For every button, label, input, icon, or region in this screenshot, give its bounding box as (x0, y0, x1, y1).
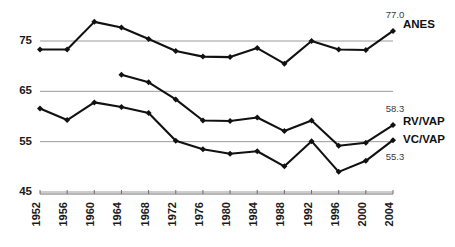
y-axis-tick-labels: 45556575 (19, 34, 32, 197)
x-tick-label-2000: 2000 (356, 202, 368, 226)
y-tick-label-45: 45 (19, 185, 32, 197)
data-point-marker (173, 48, 179, 54)
x-tick-label-1976: 1976 (193, 202, 205, 226)
data-point-marker (227, 54, 233, 60)
y-tick-label-55: 55 (19, 135, 32, 147)
x-tick-label-1964: 1964 (111, 201, 123, 226)
x-tick-label-1960: 1960 (84, 202, 96, 226)
end-value-label-anes: 77.0 (386, 9, 405, 20)
x-tick-label-1956: 1956 (57, 202, 69, 226)
series-line-anes (40, 22, 393, 64)
y-tick-label-65: 65 (19, 84, 32, 96)
series-line-vc-vap (40, 102, 393, 171)
series-label-rv-vap: RV/VAP (403, 115, 445, 127)
chart-canvas: 45556575 1952195619601964196819721976198… (0, 0, 455, 247)
series-group (40, 22, 393, 172)
y-tick-label-75: 75 (19, 34, 32, 46)
x-tick-label-1996: 1996 (329, 202, 341, 226)
series-label-anes: ANES (403, 18, 435, 30)
x-tick-label-2004: 2004 (383, 201, 395, 226)
x-tick-label-1988: 1988 (274, 202, 286, 226)
series-label-vc-vap: VC/VAP (403, 133, 445, 145)
data-point-marker (37, 105, 43, 111)
series-line-rv-vap (121, 75, 393, 146)
data-point-marker (118, 24, 124, 30)
x-tick-label-1952: 1952 (30, 202, 42, 226)
x-axis-tick-labels: 1952195619601964196819721976198019841988… (30, 201, 395, 226)
end-value-label-rv-vap: 58.3 (386, 103, 405, 114)
data-point-marker (200, 54, 206, 60)
x-tick-label-1984: 1984 (247, 201, 259, 226)
x-tick-label-1968: 1968 (139, 202, 151, 226)
data-point-marker (200, 146, 206, 152)
voter-turnout-line-chart: 45556575 1952195619601964196819721976198… (0, 0, 455, 247)
data-point-marker (336, 47, 342, 53)
x-tick-label-1972: 1972 (166, 202, 178, 226)
end-value-label-vc-vap: 55.3 (386, 151, 405, 162)
data-point-marker (118, 72, 124, 78)
data-point-marker (227, 151, 233, 157)
data-point-marker (37, 47, 43, 53)
gridlines-group (40, 41, 393, 192)
x-tick-label-1980: 1980 (220, 202, 232, 226)
x-tick-label-1992: 1992 (302, 202, 314, 226)
data-point-marker (118, 104, 124, 110)
data-point-marker (227, 118, 233, 124)
